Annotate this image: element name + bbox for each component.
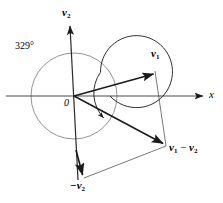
construction-line-right	[155, 71, 166, 146]
vector-v1	[74, 74, 154, 96]
angle-arc	[94, 36, 173, 118]
difference-a-sub: 1	[174, 147, 178, 155]
diagram-canvas	[0, 0, 223, 203]
v2-axis-label-sub: 2	[67, 12, 71, 20]
v2-axis-line	[70, 26, 78, 180]
neg-v2-label: −v2	[70, 180, 85, 191]
construction-line-bottom	[84, 146, 166, 178]
difference-b-sub: 2	[194, 147, 198, 155]
origin-label: 0	[64, 98, 69, 108]
v2-axis-label: v2	[62, 7, 70, 18]
vector-diagram-figure: v2 329° 0 x v1 v1 − v2 −v2	[0, 0, 223, 203]
v1-label: v1	[151, 48, 159, 59]
angle-label: 329°	[15, 41, 34, 51]
v1-label-sub: 1	[156, 53, 160, 61]
neg-v2-label-sub: 2	[82, 185, 86, 193]
x-axis-label: x	[209, 89, 214, 100]
neg-v2-label-base: −v	[70, 179, 82, 191]
v1-minus-v2-label: v1 − v2	[169, 142, 198, 153]
